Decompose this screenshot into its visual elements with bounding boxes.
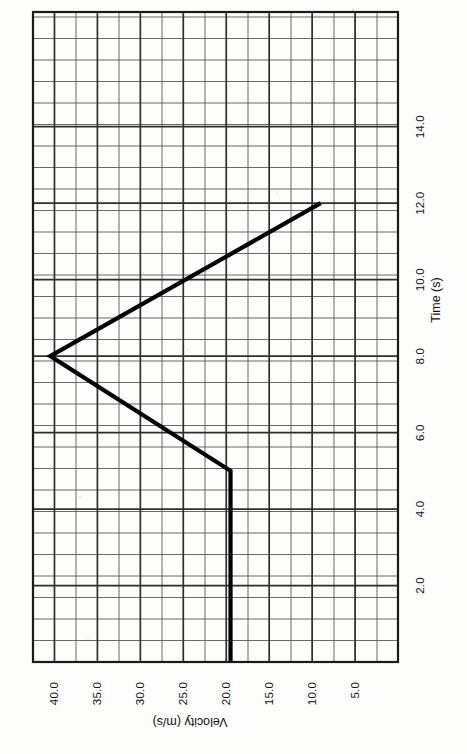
velocity-axis-title: Velocity (m/s) <box>152 715 227 729</box>
velocity-tick-label: 15.0 <box>263 682 275 705</box>
velocity-tick-label: 40.0 <box>48 682 60 705</box>
velocity-tick-label: 5.0 <box>349 682 361 699</box>
velocity-axis-tick-labels: 5.010.015.020.025.030.035.040.0 <box>48 682 361 705</box>
time-tick-label: 10.0 <box>414 268 426 291</box>
time-tick-label: 4.0 <box>414 501 426 518</box>
velocity-tick-label: 10.0 <box>306 682 318 705</box>
velocity-tick-label: 30.0 <box>134 682 146 705</box>
time-tick-label: 12.0 <box>414 192 426 215</box>
velocity-tick-label: 20.0 <box>220 682 232 705</box>
velocity-tick-label: 25.0 <box>177 682 189 705</box>
time-axis-tick-labels: 2.04.06.08.010.012.014.0 <box>414 115 426 594</box>
velocity-time-graph-figure: 2.04.06.08.010.012.014.0 5.010.015.020.0… <box>0 0 467 754</box>
time-tick-label: 2.0 <box>414 577 426 594</box>
graph-canvas: 2.04.06.08.010.012.014.0 5.010.015.020.0… <box>0 0 467 754</box>
time-tick-label: 6.0 <box>414 424 426 441</box>
time-tick-label: 14.0 <box>414 115 426 138</box>
time-axis-title: Time (s) <box>429 277 443 322</box>
time-tick-label: 8.0 <box>414 348 426 365</box>
velocity-tick-label: 35.0 <box>91 682 103 705</box>
